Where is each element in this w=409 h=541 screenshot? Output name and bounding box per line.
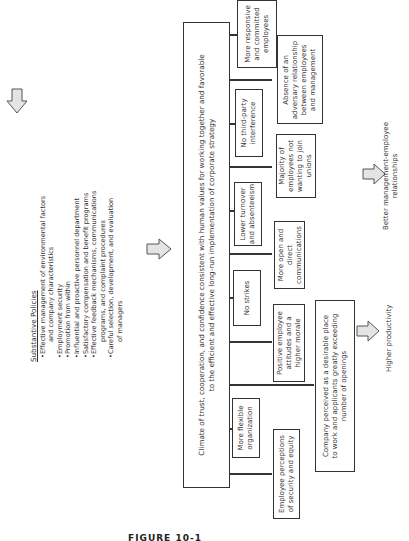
higher-productivity-label: Higher productivity bbox=[385, 305, 394, 372]
outcome-security-equity: Employee perceptionsof security and equi… bbox=[273, 429, 300, 519]
outcome-text: communications bbox=[294, 226, 303, 284]
outcome-text: No strikes bbox=[243, 281, 252, 316]
outcome-flexible-organization: More flexibleorganization bbox=[232, 398, 260, 458]
policy-item: •Satisfactory compensation and benefit p… bbox=[82, 191, 91, 362]
climate-line2: to the efficient and effective long-run … bbox=[207, 54, 217, 455]
result-text: Higher productivity bbox=[385, 305, 394, 372]
policy-item: •Influential and proactive personnel dep… bbox=[73, 191, 82, 362]
climate-line1: Climate of trust, cooperation, and confi… bbox=[197, 54, 207, 455]
outcome-no-strikes: No strikes bbox=[233, 270, 261, 326]
outcome-text: unions bbox=[305, 140, 314, 192]
outcome-text: between employees bbox=[300, 40, 309, 118]
outcome-no-adversary: Absence of anadversary relationshipbetwe… bbox=[277, 35, 323, 124]
outcome-text: number of openings bbox=[340, 314, 349, 459]
policies-heading: Substantive Policies bbox=[30, 191, 39, 362]
outcome-positive-attitudes: Positive employeeattitudes and ahigher m… bbox=[273, 304, 305, 382]
result-text: Better management-employee bbox=[382, 122, 391, 230]
connector bbox=[230, 79, 272, 81]
outcome-lower-turnover: Lower turnoverand absenteeism bbox=[234, 182, 262, 246]
outcome-text: attitudes and a bbox=[285, 311, 294, 375]
better-relationships-label: Better management-employee relationships bbox=[382, 122, 400, 230]
connector bbox=[230, 253, 272, 255]
outcome-text: Positive employee bbox=[276, 311, 285, 375]
outcome-text: adversary relationship bbox=[291, 40, 300, 118]
outcome-text: employees bbox=[262, 5, 271, 62]
outcome-text: of security and equity bbox=[287, 435, 296, 513]
figure-label: FIGURE 10-1 bbox=[128, 533, 202, 541]
outcome-text: More responsive bbox=[244, 5, 253, 62]
connector bbox=[230, 384, 314, 386]
outcome-text: and management bbox=[309, 40, 318, 118]
connector bbox=[230, 166, 272, 168]
outcome-text: and absenteeism bbox=[248, 184, 257, 244]
outcome-text: employees not bbox=[287, 140, 296, 192]
policy-item-cont: and company characteristics bbox=[47, 191, 56, 362]
policy-item: •Effective feedback mechanisms, communic… bbox=[90, 191, 99, 362]
outcome-text: interference bbox=[249, 98, 258, 147]
outcome-text: and committed bbox=[253, 5, 262, 62]
connector bbox=[230, 341, 272, 343]
policy-item-cont: of managers bbox=[116, 191, 125, 362]
outcome-text: Absence of an bbox=[282, 40, 291, 118]
down-arrow-icon bbox=[6, 88, 28, 114]
outcome-no-third-party: No third-partyinterference bbox=[235, 89, 263, 157]
outcome-text: More flexible bbox=[237, 406, 246, 451]
outcome-text: Company perceived as a desirable place bbox=[322, 314, 331, 459]
right-arrow-icon bbox=[356, 320, 380, 342]
outcome-text: Lower turnover bbox=[239, 184, 248, 244]
outcome-responsive-employees: More responsiveand committedemployees bbox=[237, 0, 277, 68]
policy-item: •Effective management of environmental f… bbox=[39, 191, 48, 362]
outcome-majority-not-union: Majority ofemployees notwanting to joinu… bbox=[276, 134, 316, 198]
outcome-text: More open and bbox=[276, 226, 285, 284]
policy-item: •Employment security bbox=[56, 191, 65, 362]
connector bbox=[230, 473, 272, 475]
policy-item: •Promotion from within bbox=[64, 191, 73, 362]
outcome-text: Majority of bbox=[278, 140, 287, 192]
climate-box: Climate of trust, cooperation, and confi… bbox=[183, 22, 230, 488]
outcome-open-communications: More open anddirectcommunications bbox=[274, 221, 305, 289]
outcome-text: No third-party bbox=[240, 98, 249, 147]
outcome-text: wanting to join bbox=[296, 140, 305, 192]
result-text: relationships bbox=[391, 122, 400, 230]
right-arrow-icon bbox=[146, 238, 172, 260]
outcome-desirable-place: Company perceived as a desirable placeto… bbox=[315, 300, 355, 472]
policy-item: •Careful selection, development, and eva… bbox=[107, 191, 116, 362]
outcome-text: higher morale bbox=[294, 311, 303, 375]
substantive-policies: Substantive Policies •Effective manageme… bbox=[30, 191, 125, 362]
policy-item-cont: programs, and complaint procedures bbox=[99, 191, 108, 362]
outcome-text: Employee perceptions bbox=[278, 435, 287, 513]
outcome-text: direct bbox=[285, 226, 294, 284]
outcome-text: organization bbox=[246, 406, 255, 451]
outcome-text: to work and applicants greatly exceeding bbox=[331, 314, 340, 459]
